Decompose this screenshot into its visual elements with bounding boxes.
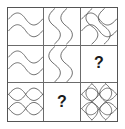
- matrix-grid: ? ?: [8, 8, 117, 121]
- matrix-puzzle-root: ? ?: [0, 0, 125, 129]
- matrix-cell-middle-center[interactable]: [44, 46, 80, 84]
- double-vertical-s-wave-icon: [44, 8, 79, 45]
- matrix-cell-top-right[interactable]: [81, 8, 117, 46]
- lens-row-pairs-icon: [8, 83, 43, 121]
- missing-cell-question-mark: ?: [44, 83, 79, 121]
- double-horizontal-s-wave-icon: [8, 46, 43, 83]
- matrix-cell-top-left[interactable]: [8, 8, 44, 46]
- matrix-cell-bottom-left[interactable]: [8, 83, 44, 121]
- double-horizontal-s-wave-icon: [8, 8, 43, 45]
- interlaced-swirl-lattice-icon: [81, 8, 117, 45]
- matrix-cell-bottom-center[interactable]: ?: [44, 83, 80, 121]
- matrix-cell-bottom-right[interactable]: [81, 83, 117, 121]
- matrix-cell-top-center[interactable]: [44, 8, 80, 46]
- matrix-cell-middle-right[interactable]: ?: [81, 46, 117, 84]
- missing-cell-question-mark: ?: [81, 46, 117, 83]
- double-vertical-s-wave-icon: [44, 46, 79, 83]
- matrix-cell-middle-left[interactable]: [8, 46, 44, 84]
- matrix-outer-frame: ? ?: [7, 7, 118, 122]
- circle-lattice-rosette-icon: [81, 83, 117, 121]
